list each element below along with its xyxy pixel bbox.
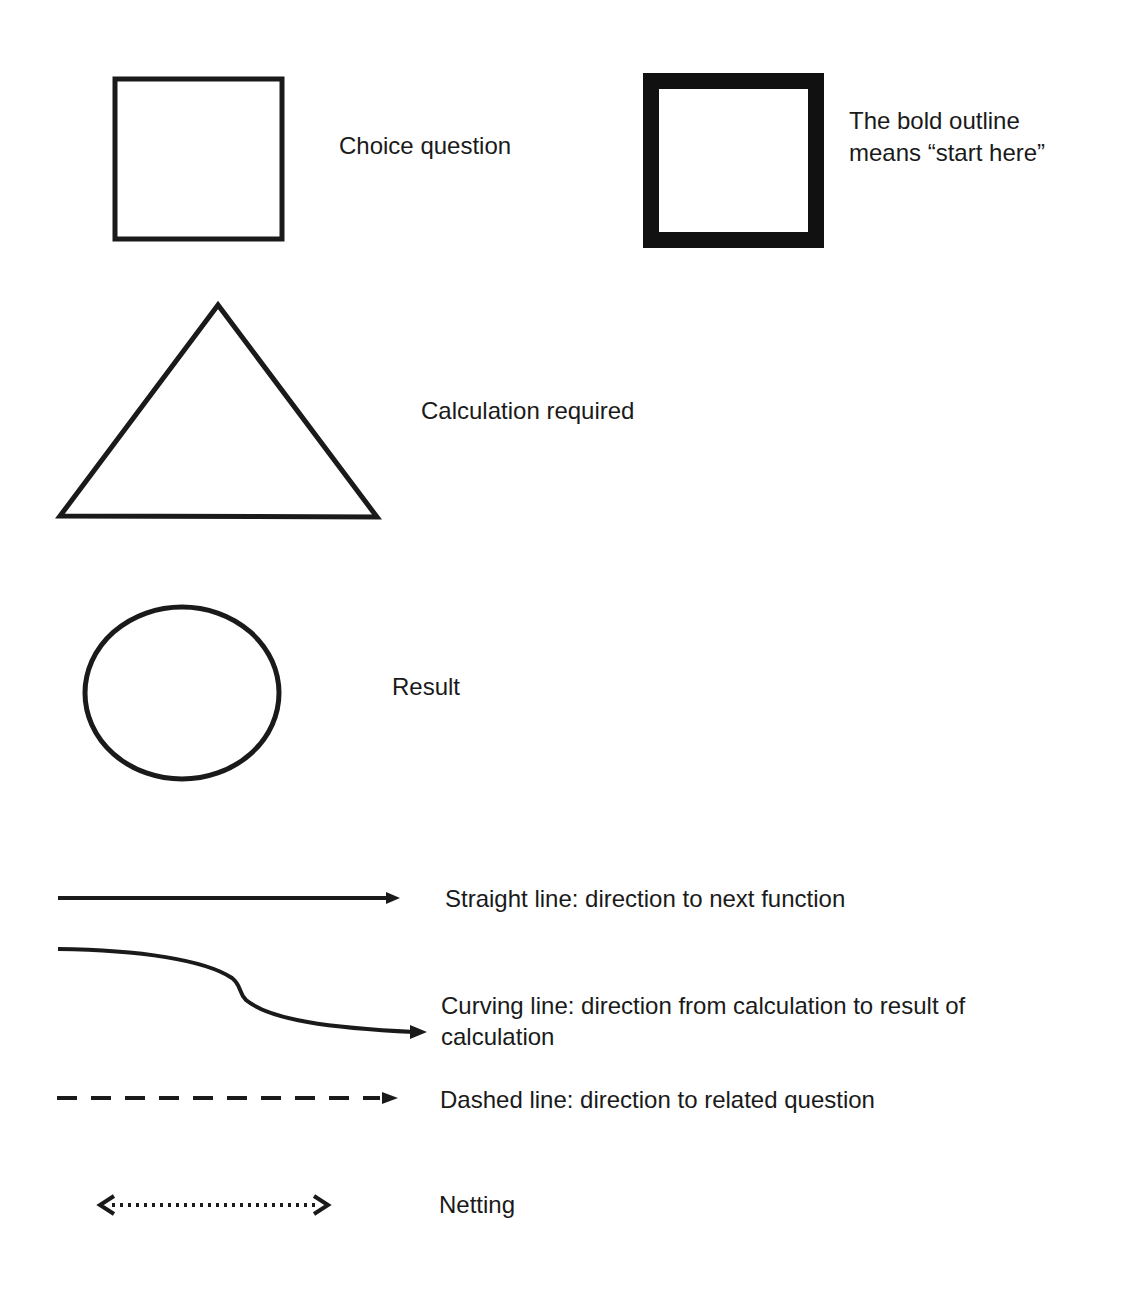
choice-question-label: Choice question bbox=[339, 130, 511, 161]
result-label: Result bbox=[392, 671, 460, 702]
bold-square-icon bbox=[651, 81, 816, 240]
triangle-icon bbox=[60, 305, 377, 517]
straight-line-label: Straight line: direction to next functio… bbox=[445, 883, 845, 914]
straight-arrow-icon bbox=[58, 892, 400, 904]
dashed-arrow-icon bbox=[57, 1092, 398, 1104]
dashed-line-label: Dashed line: direction to related questi… bbox=[440, 1084, 875, 1115]
circle-icon bbox=[85, 607, 279, 779]
start-here-label-line2: means “start here” bbox=[849, 137, 1045, 168]
curved-arrow-icon bbox=[58, 949, 427, 1039]
calculation-required-label: Calculation required bbox=[421, 395, 634, 426]
square-icon bbox=[115, 79, 282, 239]
start-here-label-line1: The bold outline bbox=[849, 105, 1020, 136]
curving-line-label-line1: Curving line: direction from calculation… bbox=[441, 990, 965, 1021]
curving-line-label-line2: calculation bbox=[441, 1021, 554, 1052]
dotted-double-arrow-icon bbox=[100, 1196, 328, 1214]
netting-label: Netting bbox=[439, 1189, 515, 1220]
